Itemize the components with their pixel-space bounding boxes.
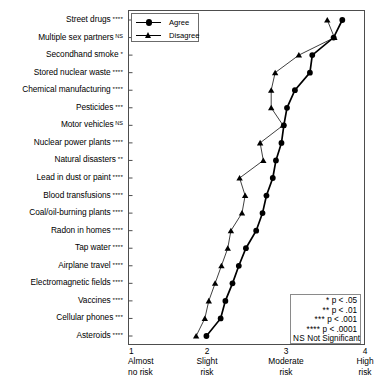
- x-axis-ticks: 1Almostno risk2Slightrisk3Moderaterisk4H…: [0, 346, 386, 392]
- category-label: Asteroids ****: [77, 330, 124, 341]
- circle-marker-icon: [222, 298, 228, 304]
- circle-marker-icon: [281, 122, 287, 128]
- triangle-marker-icon: [257, 140, 263, 146]
- x-tick-number: 2: [197, 346, 218, 356]
- series-disagree: [193, 17, 338, 339]
- x-tick-group: 4Highrisk: [356, 346, 373, 377]
- significance-marker: ****: [111, 331, 123, 338]
- category-label: Airplane travel ****: [58, 259, 123, 270]
- category-label: Tap water ****: [75, 242, 123, 253]
- circle-marker-icon: [331, 35, 337, 41]
- category-label-text: Chemical manufacturing: [22, 85, 110, 95]
- category-label: Coal/oil-burning plants ****: [29, 207, 123, 218]
- category-label-text: Motor vehicles: [61, 119, 114, 129]
- significance-marker: ****: [111, 208, 123, 215]
- category-label: Natural disasters **: [54, 154, 123, 165]
- category-axis-labels: Street drugs ****Multiple sex partners N…: [0, 0, 126, 346]
- significance-key-text: p < .001: [325, 315, 357, 324]
- category-label-text: Nuclear power plants: [34, 137, 111, 147]
- circle-marker-icon: [236, 263, 242, 269]
- x-tick-number: 4: [356, 346, 373, 356]
- x-tick-label-line1: Moderate: [268, 356, 303, 367]
- triangle-marker-icon: [145, 32, 151, 38]
- legend-entry-disagree: Disagree: [132, 29, 198, 42]
- category-label-text: Coal/oil-burning plants: [29, 207, 110, 217]
- category-label-text: Blood transfusions: [43, 190, 110, 200]
- circle-marker-icon: [284, 105, 290, 111]
- category-label-text: Vaccines: [78, 295, 111, 305]
- category-label-text: Airplane travel: [58, 260, 110, 270]
- category-label-text: Secondhand smoke: [46, 49, 119, 59]
- significance-marker: **: [116, 155, 123, 162]
- significance-key-text: p < .01: [329, 306, 357, 315]
- category-label: Cellular phones ***: [56, 312, 123, 323]
- category-label-text: Tap water: [75, 243, 111, 253]
- circle-marker-icon: [270, 175, 276, 181]
- triangle-marker-icon: [202, 315, 208, 321]
- category-label: Motor vehicles NS: [61, 119, 123, 129]
- significance-key-stars: NS: [293, 334, 305, 343]
- x-tick-label-line2: no risk: [128, 367, 154, 378]
- significance-key-stars: ****: [306, 325, 320, 334]
- category-label: Street drugs ****: [66, 14, 123, 25]
- series-line: [196, 20, 334, 336]
- category-label-text: Multiple sex partners: [38, 32, 114, 42]
- category-label-text: Pesticides: [76, 102, 113, 112]
- category-label-text: Cellular phones: [56, 313, 113, 323]
- category-label: Lead in dust or paint ****: [37, 172, 124, 183]
- triangle-marker-icon: [236, 175, 242, 181]
- category-label-text: Radon in homes: [51, 225, 111, 235]
- x-tick-group: 1Almostno risk: [128, 346, 154, 377]
- x-tick-group: 2Slightrisk: [197, 346, 218, 377]
- x-tick-number: 1: [128, 346, 154, 356]
- triangle-marker-icon: [268, 87, 274, 93]
- significance-key-row: ** p < .01: [293, 306, 357, 316]
- risk-perception-chart: Street drugs ****Multiple sex partners N…: [0, 0, 386, 392]
- significance-key-text: Not Significant: [305, 334, 360, 343]
- significance-marker: ****: [111, 67, 123, 74]
- category-label: Nuclear power plants ****: [34, 137, 123, 148]
- x-tick-label-line2: risk: [197, 367, 218, 378]
- significance-marker: ****: [111, 190, 123, 197]
- significance-marker: ***: [113, 102, 123, 109]
- category-label: Secondhand smoke *: [46, 49, 123, 60]
- triangle-marker-icon: [272, 70, 278, 76]
- category-label-text: Asteroids: [77, 330, 111, 340]
- significance-marker: *: [118, 50, 123, 57]
- triangle-marker-icon: [212, 280, 218, 286]
- triangle-marker-icon: [268, 105, 274, 111]
- circle-marker-icon: [218, 316, 224, 322]
- category-label-text: Electromagnetic fields: [31, 278, 111, 288]
- x-tick-label-line1: Almost: [128, 356, 154, 367]
- significance-marker: ****: [111, 85, 123, 92]
- significance-marker: ****: [111, 138, 123, 145]
- triangle-marker-icon: [239, 210, 245, 216]
- category-label-text: Street drugs: [66, 14, 111, 24]
- circle-marker-icon: [273, 158, 279, 164]
- legend-label-disagree: Disagree: [169, 32, 199, 40]
- category-label: Multiple sex partners NS: [38, 31, 123, 41]
- circle-marker-icon: [292, 87, 298, 93]
- x-tick-label-line2: risk: [268, 367, 303, 378]
- x-tick-label-line1: High: [356, 356, 373, 367]
- significance-key-stars: ***: [314, 315, 324, 324]
- category-label: Radon in homes ****: [51, 224, 123, 235]
- category-label-text: Stored nuclear waste: [34, 67, 111, 77]
- significance-key-text: p < .05: [329, 296, 357, 305]
- circle-marker-icon: [307, 70, 313, 76]
- triangle-marker-icon: [242, 193, 248, 199]
- significance-marker: ****: [111, 260, 123, 267]
- circle-marker-icon: [279, 140, 285, 146]
- category-label: Blood transfusions ****: [43, 189, 123, 200]
- legend-label-agree: Agree: [169, 19, 189, 27]
- significance-marker: NS: [114, 120, 123, 126]
- significance-key-row: **** p < .0001: [293, 325, 357, 335]
- circle-marker-icon: [264, 193, 270, 199]
- significance-marker: ****: [111, 173, 123, 180]
- significance-key: * p < .05** p < .01*** p < .001**** p < …: [290, 294, 361, 344]
- circle-marker-icon: [253, 228, 259, 234]
- series-agree: [204, 17, 346, 339]
- category-label: Vaccines ****: [78, 295, 123, 306]
- significance-key-row: NS Not Significant: [293, 334, 357, 344]
- category-label-text: Lead in dust or paint: [37, 172, 111, 182]
